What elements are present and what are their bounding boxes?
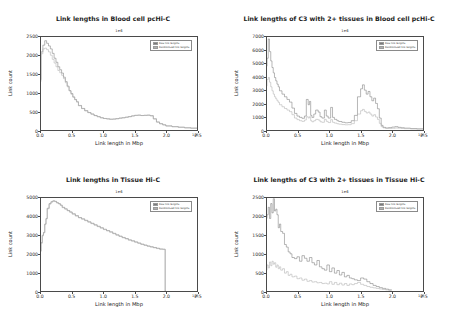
- legend-swatch: [379, 203, 384, 206]
- axis-exponent-top: 1e6: [40, 29, 198, 33]
- x-tick-mark: [103, 131, 104, 133]
- x-tick-mark: [298, 131, 299, 133]
- x-tick-mark: [198, 131, 199, 133]
- y-axis-label: Link count: [233, 70, 239, 96]
- legend-swatch: [379, 46, 384, 49]
- panel-title: Link lengths of C3 with 2+ tissues in Ti…: [226, 176, 452, 184]
- y-tick-label: 1000: [26, 271, 38, 276]
- x-tick-label: 1.0: [100, 294, 107, 299]
- y-tick-mark: [38, 254, 40, 255]
- x-tick-mark: [40, 292, 41, 294]
- legend-label: Raw link lengths: [159, 42, 179, 45]
- plot-area: Raw link lengthsRandomized link lengths: [40, 197, 198, 292]
- x-tick-label: 1.5: [131, 294, 138, 299]
- x-tick-label: 0.0: [36, 133, 43, 138]
- y-tick-label: 7000: [252, 34, 264, 39]
- y-tick-mark: [38, 74, 40, 75]
- y-tick-label: 5000: [252, 61, 264, 66]
- legend-item: Raw link lengths: [379, 203, 416, 206]
- panel-bottom-left: Link lengths in Tissue Hi-C 1e6 Link cou…: [0, 161, 226, 322]
- x-tick-label: 0.5: [68, 133, 75, 138]
- legend-swatch: [153, 207, 158, 210]
- series-line: [41, 41, 197, 128]
- series-line: [267, 78, 423, 130]
- x-tick-mark: [198, 292, 199, 294]
- series-line: [41, 201, 166, 291]
- x-tick-label: 0.5: [68, 294, 75, 299]
- figure-grid: Link lengths in Blood cell pcHi-C 1e6 Li…: [0, 0, 452, 322]
- panel-title: Link lengths in Blood cell pcHi-C: [0, 15, 226, 23]
- legend-swatch: [379, 42, 384, 45]
- panel-title: Link lengths in Tissue Hi-C: [0, 176, 226, 184]
- y-tick-label: 2000: [26, 252, 38, 257]
- legend: Raw link lengthsRandomized link lengths: [376, 201, 418, 212]
- x-tick-mark: [298, 292, 299, 294]
- legend-item: Raw link lengths: [153, 42, 190, 45]
- y-tick-label: 1500: [26, 72, 38, 77]
- y-tick-mark: [38, 273, 40, 274]
- legend-item: Randomized link lengths: [379, 207, 416, 210]
- legend-swatch: [153, 203, 158, 206]
- x-tick-label: 2.5: [420, 294, 427, 299]
- x-tick-label: 0.5: [294, 294, 301, 299]
- x-axis-label: Link length in Mbp: [40, 301, 198, 307]
- x-tick-label: 0.0: [262, 294, 269, 299]
- legend-label: Raw link lengths: [385, 203, 405, 206]
- plot-area: Raw link lengthsRandomized link lengths: [266, 197, 424, 292]
- x-tick-mark: [392, 292, 393, 294]
- legend-item: Randomized link lengths: [153, 46, 190, 49]
- y-tick-mark: [264, 273, 266, 274]
- series-line: [267, 199, 392, 290]
- y-tick-label: 1000: [252, 115, 264, 120]
- x-tick-mark: [392, 131, 393, 133]
- y-tick-mark: [264, 36, 266, 37]
- y-axis-label: Link count: [233, 231, 239, 257]
- x-tick-label: 2.5: [420, 133, 427, 138]
- legend-item: Randomized link lengths: [379, 46, 416, 49]
- y-tick-label: 2500: [26, 34, 38, 39]
- legend-label: Randomized link lengths: [159, 46, 189, 49]
- y-axis-label: Link count: [7, 70, 13, 96]
- legend-label: Randomized link lengths: [385, 46, 415, 49]
- x-tick-mark: [72, 131, 73, 133]
- legend: Raw link lengthsRandomized link lengths: [376, 40, 418, 51]
- x-tick-mark: [103, 292, 104, 294]
- y-tick-label: 4000: [252, 74, 264, 79]
- y-tick-label: 2500: [252, 195, 264, 200]
- x-tick-label: 0.0: [36, 294, 43, 299]
- y-tick-mark: [264, 117, 266, 118]
- y-tick-mark: [264, 197, 266, 198]
- x-tick-label: 1.5: [131, 133, 138, 138]
- legend-label: Randomized link lengths: [159, 207, 189, 210]
- x-tick-label: 2.0: [389, 294, 396, 299]
- legend-item: Randomized link lengths: [153, 207, 190, 210]
- y-tick-mark: [264, 104, 266, 105]
- x-tick-label: 1.5: [357, 133, 364, 138]
- x-axis-label: Link length in Mbp: [266, 301, 424, 307]
- x-tick-label: 0.5: [294, 133, 301, 138]
- x-tick-label: 2.5: [194, 294, 201, 299]
- series-line: [267, 39, 423, 129]
- y-tick-mark: [38, 36, 40, 37]
- legend-swatch: [153, 46, 158, 49]
- legend-swatch: [379, 207, 384, 210]
- x-tick-mark: [424, 131, 425, 133]
- x-tick-mark: [266, 292, 267, 294]
- x-tick-mark: [166, 131, 167, 133]
- x-tick-mark: [266, 131, 267, 133]
- y-tick-mark: [264, 50, 266, 51]
- x-tick-label: 1.5: [357, 294, 364, 299]
- y-tick-mark: [264, 235, 266, 236]
- panel-top-left: Link lengths in Blood cell pcHi-C 1e6 Li…: [0, 0, 226, 161]
- plot-area: Raw link lengthsRandomized link lengths: [266, 36, 424, 131]
- y-tick-label: 500: [29, 110, 38, 115]
- y-tick-label: 1000: [26, 91, 38, 96]
- y-tick-label: 5000: [26, 195, 38, 200]
- y-tick-mark: [264, 90, 266, 91]
- y-tick-label: 3000: [26, 233, 38, 238]
- y-tick-mark: [38, 197, 40, 198]
- x-tick-mark: [166, 292, 167, 294]
- x-tick-mark: [72, 292, 73, 294]
- axis-exponent-top: 1e6: [40, 190, 198, 194]
- y-tick-label: 2000: [26, 53, 38, 58]
